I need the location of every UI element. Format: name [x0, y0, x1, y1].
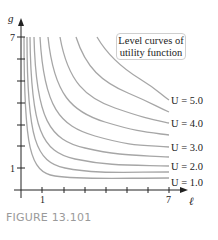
- figure-caption: FIGURE 13.101: [6, 211, 91, 224]
- curve-labels: U = 5.0 U = 4.0 U = 3.0 U = 2.0 U = 1.0: [171, 95, 203, 188]
- y-axis-arrow-icon: [18, 18, 24, 26]
- x-axis-label: ℓ: [189, 195, 194, 207]
- curve-label-u2: U = 2.0: [171, 161, 203, 172]
- curve-label-u3: U = 3.0: [171, 142, 203, 153]
- curve-label-u1: U = 1.0: [171, 177, 203, 188]
- legend-line-1: Level curves of: [117, 35, 185, 47]
- curve-label-u4: U = 4.0: [171, 118, 203, 129]
- curve-label-u5: U = 5.0: [171, 95, 203, 106]
- y-tick-label-1: 1: [10, 163, 15, 174]
- legend-line-2: utility function: [117, 47, 185, 59]
- legend-box: Level curves of utility function: [116, 33, 186, 60]
- y-axis-label: g: [8, 12, 14, 24]
- x-tick-label-7: 7: [166, 194, 171, 205]
- x-tick-label-1: 1: [40, 194, 45, 205]
- y-tick-label-7: 7: [10, 32, 15, 43]
